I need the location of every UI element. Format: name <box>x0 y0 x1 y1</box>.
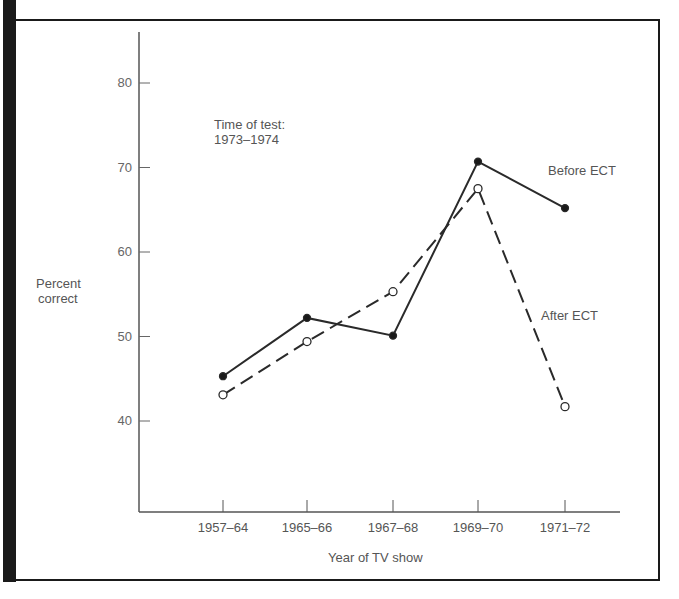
after-ect-marker <box>561 403 569 411</box>
x-tick-label: 1965–66 <box>267 520 347 535</box>
before-ect-line <box>223 162 565 377</box>
before-ect-marker <box>304 314 311 321</box>
x-tick-label: 1957–64 <box>183 520 263 535</box>
before-ect-marker <box>562 205 569 212</box>
before-ect-marker <box>390 332 397 339</box>
series-markers <box>219 158 569 411</box>
y-tick-label: 60 <box>102 244 132 259</box>
y-tick-label: 70 <box>102 160 132 175</box>
y-axis-label-line1: Percent <box>36 276 81 291</box>
y-ticks <box>139 83 150 421</box>
y-tick-label: 50 <box>102 329 132 344</box>
x-axis-label: Year of TV show <box>328 550 423 565</box>
annotation-test-years: 1973–1974 <box>214 132 279 147</box>
after-ect-marker <box>389 288 397 296</box>
series-lines <box>223 162 565 407</box>
y-tick-label: 80 <box>102 75 132 90</box>
legend-label-before-ect: Before ECT <box>548 163 616 178</box>
x-tick-label: 1969–70 <box>438 520 518 535</box>
x-tick-label: 1971–72 <box>525 520 605 535</box>
y-tick-label: 40 <box>102 413 132 428</box>
legend-label-after-ect: After ECT <box>541 308 598 323</box>
x-tick-label: 1967–68 <box>353 520 433 535</box>
annotation-time-of-test: Time of test: <box>214 117 285 132</box>
after-ect-marker <box>219 391 227 399</box>
after-ect-marker <box>303 338 311 346</box>
before-ect-marker <box>220 373 227 380</box>
after-ect-line <box>223 189 565 407</box>
y-axis-label-line2: correct <box>38 291 78 306</box>
before-ect-marker <box>475 158 482 165</box>
x-ticks <box>223 500 565 512</box>
after-ect-marker <box>474 185 482 193</box>
